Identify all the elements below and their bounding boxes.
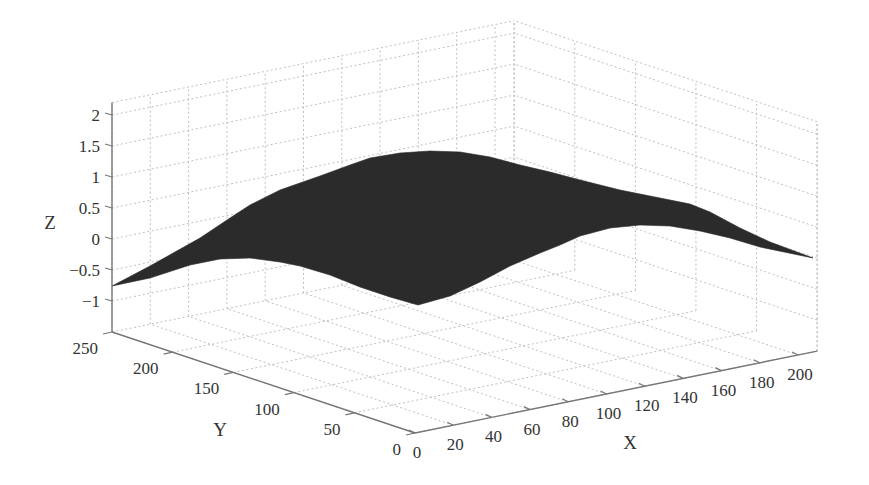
x-tick-label: 120	[634, 396, 660, 415]
x-tick-label: 80	[562, 412, 579, 431]
x-axis-label: X	[623, 432, 637, 453]
x-tick-label: 100	[596, 404, 622, 423]
y-axis-label: Y	[213, 419, 227, 440]
z-tick	[105, 237, 112, 239]
floor-grid-x	[189, 316, 492, 417]
floor-grid-x	[342, 285, 645, 386]
floor-grid-y	[294, 311, 696, 393]
z-tick	[105, 144, 112, 146]
wall-grid-z	[514, 33, 817, 134]
floor-grid-x	[457, 262, 760, 363]
y-tick-label: 150	[194, 379, 220, 398]
box-edge	[112, 21, 514, 103]
y-tick-label: 250	[73, 339, 99, 358]
floor-grid-y	[233, 291, 635, 373]
y-tick-label: 100	[254, 400, 280, 419]
z-tick	[105, 268, 112, 270]
y-tick-label: 50	[323, 420, 340, 439]
floor-grid-x	[150, 324, 453, 425]
z-tick	[105, 113, 112, 115]
y-tick	[285, 393, 294, 395]
floor-grid-x	[227, 309, 530, 410]
z-tick-label: −0.5	[69, 261, 100, 280]
y-tick	[103, 332, 112, 334]
surface	[112, 151, 813, 305]
x-tick-label: 0	[413, 443, 422, 462]
x-tick-label: 180	[749, 373, 775, 392]
z-tick-label: 0	[92, 230, 101, 249]
floor-grid-x	[265, 301, 568, 402]
y-tick	[224, 372, 233, 374]
wall-grid-z	[112, 64, 514, 146]
z-tick	[105, 206, 112, 208]
box-edge	[514, 21, 817, 122]
z-tick-label: 2	[92, 106, 101, 125]
z-tick-label: −1	[82, 292, 100, 311]
z-axis-label: Z	[44, 212, 56, 233]
y-tick	[406, 433, 415, 435]
wall-grid-z	[112, 33, 514, 115]
x-tick-label: 140	[672, 388, 698, 407]
floor-grid-x	[304, 293, 607, 394]
z-tick-label: 1.5	[79, 137, 100, 156]
z-tick-label: 0.5	[79, 199, 100, 218]
z-tick-label: 1	[92, 168, 101, 187]
y-tick-label: 200	[133, 359, 159, 378]
x-tick-label: 20	[447, 435, 464, 454]
x-tick-label: 60	[523, 420, 540, 439]
surface-mesh	[112, 151, 813, 305]
x-tick-label: 160	[711, 381, 737, 400]
x-tick-label: 40	[485, 427, 502, 446]
wall-grid-z	[514, 64, 817, 165]
y-tick	[164, 352, 173, 354]
z-tick	[105, 299, 112, 301]
y-tick	[345, 413, 354, 415]
y-tick-label: 0	[393, 440, 402, 459]
surface-plot: −1−0.500.511.520501001502002500204060801…	[0, 0, 869, 485]
floor-grid-x	[495, 254, 798, 355]
x-tick-label: 200	[787, 365, 813, 384]
z-tick	[105, 175, 112, 177]
